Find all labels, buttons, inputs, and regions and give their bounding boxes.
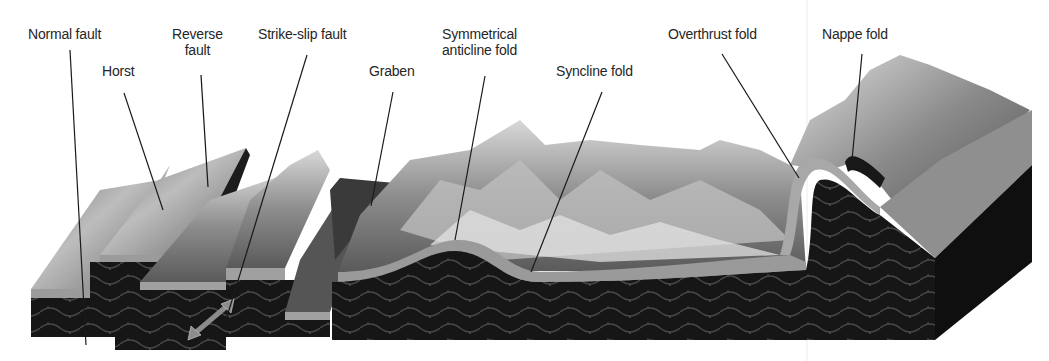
label-graben: Graben xyxy=(369,63,415,79)
label-text: Nappe fold xyxy=(822,26,888,42)
label-text: anticline fold xyxy=(442,42,517,58)
label-text: Graben xyxy=(369,63,415,79)
label-text: Normal fault xyxy=(28,26,101,42)
label-text: fault xyxy=(185,42,210,58)
label-text: Overthrust fold xyxy=(668,26,757,42)
label-symmetrical-anticline-fold: Symmetrical anticline fold xyxy=(442,26,517,58)
label-overthrust-fold: Overthrust fold xyxy=(668,26,757,42)
label-nappe-fold: Nappe fold xyxy=(822,26,888,42)
label-syncline-fold: Syncline fold xyxy=(556,63,633,79)
label-text: Strike-slip fault xyxy=(258,26,346,42)
label-reverse-fault: Reverse fault xyxy=(172,26,223,58)
label-strike-slip-fault: Strike-slip fault xyxy=(258,26,346,42)
label-text: Horst xyxy=(102,63,134,79)
label-normal-fault: Normal fault xyxy=(28,26,101,42)
label-horst: Horst xyxy=(102,63,134,79)
geology-block-diagram: Normal fault Horst Reverse fault Strike-… xyxy=(0,0,1049,361)
label-text: Syncline fold xyxy=(556,63,633,79)
label-text: Symmetrical xyxy=(442,26,517,42)
block-diagram-illustration xyxy=(0,0,1049,361)
label-text: Reverse xyxy=(172,26,223,42)
